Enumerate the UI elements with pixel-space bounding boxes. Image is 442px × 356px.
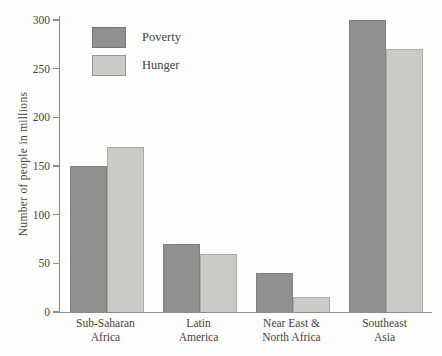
y-tick-0 bbox=[53, 311, 59, 312]
y-tick-label-250: 250 bbox=[14, 63, 50, 75]
legend-item-poverty: Poverty bbox=[92, 27, 181, 48]
bar-hunger-near-east-north-africa bbox=[293, 297, 330, 312]
bar-hunger-latin-america bbox=[200, 254, 237, 312]
legend-item-hunger: Hunger bbox=[92, 55, 181, 76]
y-tick-label-300: 300 bbox=[14, 14, 50, 26]
legend-swatch-poverty bbox=[92, 27, 126, 48]
bar-poverty-southeast-asia bbox=[349, 20, 386, 312]
bar-hunger-sub-saharan-africa bbox=[107, 147, 144, 312]
y-tick-100 bbox=[53, 214, 59, 215]
legend: PovertyHunger bbox=[92, 27, 181, 83]
y-tick-label-50: 50 bbox=[14, 257, 50, 269]
legend-label-hunger: Hunger bbox=[142, 58, 180, 73]
y-tick-label-0: 0 bbox=[14, 306, 50, 318]
y-tick-50 bbox=[53, 263, 59, 264]
legend-swatch-hunger bbox=[92, 55, 126, 76]
bar-poverty-sub-saharan-africa bbox=[70, 166, 107, 312]
y-tick-label-100: 100 bbox=[14, 209, 50, 221]
x-category-label-southeast-asia: SoutheastAsia bbox=[330, 316, 440, 344]
y-tick-300 bbox=[53, 19, 59, 20]
y-tick-200 bbox=[53, 117, 59, 118]
bar-chart-figure: Number of people in millions 05010015020… bbox=[0, 0, 442, 356]
y-tick-label-200: 200 bbox=[14, 111, 50, 123]
bar-poverty-near-east-north-africa bbox=[256, 273, 293, 312]
y-tick-250 bbox=[53, 68, 59, 69]
y-tick-150 bbox=[53, 165, 59, 166]
bar-hunger-southeast-asia bbox=[386, 49, 423, 312]
bar-poverty-latin-america bbox=[163, 244, 200, 312]
y-tick-label-150: 150 bbox=[14, 160, 50, 172]
legend-label-poverty: Poverty bbox=[142, 30, 181, 45]
